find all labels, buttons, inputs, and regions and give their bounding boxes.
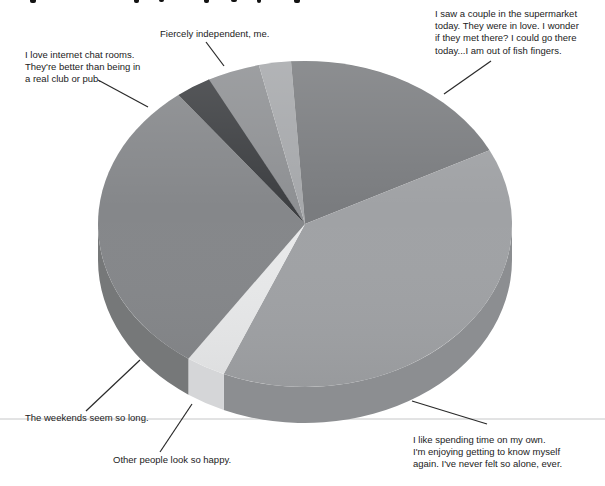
leader-line-fiercely	[206, 42, 224, 66]
screenshot-root: Fiercely independent, me. I saw a couple…	[0, 0, 605, 486]
label-weekends-long: The weekends seem so long.	[25, 412, 149, 424]
label-spending-time-alone: I like spending time on my own. I'm enjo…	[413, 434, 562, 471]
leader-line-spending-time	[412, 401, 487, 424]
label-internet-chat-rooms: I love internet chat rooms. They're bett…	[25, 49, 140, 86]
label-other-people-happy: Other people look so happy.	[113, 454, 231, 466]
label-fiercely-independent: Fiercely independent, me.	[160, 28, 269, 40]
leader-line-weekends	[86, 360, 140, 411]
leader-line-other-people	[160, 404, 192, 452]
label-supermarket-couple: I saw a couple in the supermarket today.…	[435, 8, 579, 57]
leader-line-supermarket	[444, 61, 491, 94]
pie-shading-overlay	[98, 61, 512, 387]
